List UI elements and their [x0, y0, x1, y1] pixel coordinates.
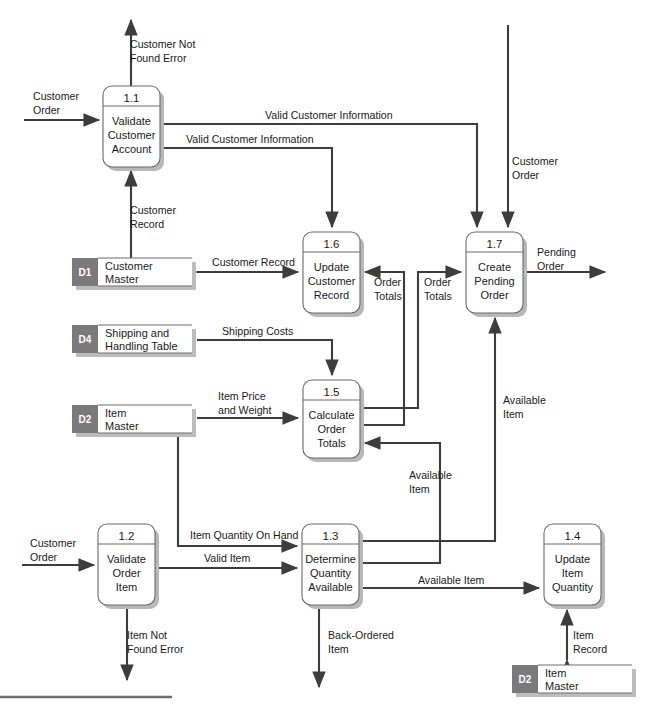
process-1-2-line3: Item [116, 581, 137, 593]
process-1-4-line3: Quantity [552, 581, 593, 593]
process-1-3-line2: Quantity [310, 567, 351, 579]
flow-label-order-totals-1-7-l2: Totals [424, 290, 452, 302]
data-store-d4-line2: Handling Table [105, 340, 178, 352]
process-1-2-line2: Order [112, 567, 140, 579]
flow-available-item-to-1-5 [359, 443, 440, 563]
data-store-d2-item-master-left[interactable]: D2 Item Master [72, 405, 196, 437]
data-store-d1-id: D1 [79, 267, 92, 278]
process-1-3-id: 1.3 [323, 530, 339, 542]
process-1-3-line1: Determine [305, 553, 356, 565]
flow-label-customer-order-in-1-7-l1: Customer [512, 155, 558, 167]
flow-label-item-price-and-weight-l2: and Weight [218, 404, 271, 416]
flow-label-item-not-found-error-l2: Found Error [127, 643, 184, 655]
flow-label-valid-item-l1: Valid Item [204, 552, 250, 564]
process-1-5-line2: Order [317, 423, 345, 435]
flow-label-customer-record-1-1-l2: Record [130, 218, 164, 230]
flow-label-back-ordered-item-l2: Item [328, 643, 349, 655]
process-1-5-line1: Calculate [309, 409, 355, 421]
data-store-d2-left-line2: Master [105, 420, 139, 432]
flow-label-item-quantity-on-hand-l1: Item Quantity On Hand [190, 529, 298, 541]
process-1-1-line3: Account [112, 143, 152, 155]
data-store-d2-left-id: D2 [79, 414, 92, 425]
flow-label-item-price-and-weight-l1: Item Price [218, 390, 266, 402]
flow-available-item-to-1-7 [359, 318, 495, 541]
process-1-6-line3: Record [314, 289, 349, 301]
data-store-d4-line1: Shipping and [105, 327, 169, 339]
process-1-4-line2: Item [562, 567, 583, 579]
data-store-d2-right-id: D2 [519, 674, 532, 685]
flow-label-customer-order-in-1-1-l1: Customer [33, 90, 79, 102]
process-1-4[interactable]: 1.4 Update Item Quantity [544, 524, 605, 609]
flow-label-customer-order-in-1-7-l2: Order [512, 169, 540, 181]
data-store-d1-customer-master[interactable]: D1 Customer Master [72, 258, 196, 290]
process-1-6[interactable]: 1.6 Update Customer Record [303, 232, 364, 317]
flow-label-customer-order-in-1-2-l1: Customer [30, 537, 76, 549]
dfd-svg: 1.1 Validate Customer Account 1.2 Valida… [0, 0, 649, 704]
process-1-7-id: 1.7 [487, 238, 503, 250]
flow-label-back-ordered-item-l1: Back-Ordered [328, 629, 394, 641]
process-1-7-line3: Order [480, 289, 508, 301]
flow-label-item-record-l1: Item [573, 629, 594, 641]
flow-label-pending-order-l1: Pending [537, 246, 576, 258]
process-1-6-line1: Update [314, 261, 349, 273]
data-store-d4-shipping-and-handling-table[interactable]: D4 Shipping and Handling Table [72, 325, 196, 357]
flow-label-available-item-1-7-l2: Item [503, 408, 524, 420]
flow-label-order-totals-1-7-l1: Order [424, 276, 452, 288]
process-1-1-line2: Customer [108, 129, 156, 141]
process-1-7[interactable]: 1.7 Create Pending Order [466, 232, 527, 317]
data-store-d2-right-line2: Master [545, 680, 579, 692]
flow-label-valid-customer-information-1-6-l1: Valid Customer Information [186, 133, 314, 145]
flow-label-order-totals-1-6-l1: Order [374, 276, 402, 288]
process-1-6-id: 1.6 [324, 238, 340, 250]
flow-label-item-not-found-error-l1: Item Not [127, 629, 167, 641]
flow-label-pending-order-l2: Order [537, 260, 565, 272]
data-store-d2-right-line1: Item [545, 667, 566, 679]
data-store-d2-left-line1: Item [105, 407, 126, 419]
flow-label-item-record-l2: Record [573, 643, 607, 655]
flow-label-shipping-costs-l1: Shipping Costs [222, 325, 293, 337]
process-1-4-line1: Update [555, 553, 590, 565]
process-1-7-line2: Pending [474, 275, 514, 287]
flow-label-valid-customer-information-1-7-l1: Valid Customer Information [265, 109, 393, 121]
flow-label-customer-order-in-1-1-l2: Order [33, 104, 61, 116]
process-1-5-line3: Totals [317, 437, 346, 449]
flow-label-customer-not-found-error-l2: Found Error [130, 52, 187, 64]
process-1-1-line1: Validate [112, 115, 151, 127]
flow-label-customer-not-found-error-l1: Customer Not [130, 38, 195, 50]
process-1-3[interactable]: 1.3 Determine Quantity Available [302, 524, 363, 609]
flow-label-available-item-1-5-l1: Available [409, 469, 452, 481]
process-1-2[interactable]: 1.2 Validate Order Item [98, 524, 159, 609]
flow-label-order-totals-1-6-l2: Totals [374, 290, 402, 302]
process-1-4-id: 1.4 [565, 530, 582, 542]
flow-label-customer-record-d1-1-6-l1: Customer Record [212, 256, 295, 268]
flow-shipping-costs-to-1-5 [197, 340, 332, 375]
process-1-2-line1: Validate [107, 553, 146, 565]
flow-label-available-item-1-5-l2: Item [409, 483, 430, 495]
flow-label-customer-order-in-1-2-l2: Order [30, 551, 58, 563]
data-store-d4-id: D4 [79, 334, 92, 345]
flow-label-available-item-1-4-l1: Available Item [418, 574, 485, 586]
process-1-1[interactable]: 1.1 Validate Customer Account [103, 86, 164, 171]
process-1-5[interactable]: 1.5 Calculate Order Totals [303, 380, 364, 462]
flow-valid-customer-information-to-1-6 [160, 148, 332, 227]
dfd-canvas: 1.1 Validate Customer Account 1.2 Valida… [0, 0, 649, 704]
process-1-1-id: 1.1 [124, 92, 140, 104]
data-store-d1-line1: Customer [105, 260, 153, 272]
process-1-6-line2: Customer [308, 275, 356, 287]
process-1-5-id: 1.5 [324, 386, 340, 398]
process-1-2-id: 1.2 [119, 530, 135, 542]
data-store-d2-item-master-right[interactable]: D2 Item Master [512, 665, 636, 697]
flow-label-available-item-1-7-l1: Available [503, 394, 546, 406]
flow-label-customer-record-1-1-l1: Customer [130, 204, 176, 216]
process-1-7-line1: Create [478, 261, 511, 273]
data-store-d1-line2: Master [105, 273, 139, 285]
process-1-3-line3: Available [308, 581, 352, 593]
